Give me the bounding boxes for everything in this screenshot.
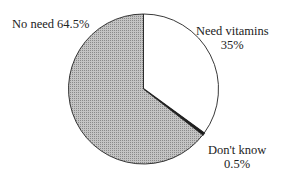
label-dont-know: Don't know 0.5% [208,143,266,171]
label-need-vitamins-value: 35% [196,38,269,52]
label-dont-know-value: 0.5% [208,157,266,171]
label-need-vitamins-name: Need vitamins [196,24,269,38]
label-dont-know-name: Don't know [208,143,266,157]
label-no-need: No need 64.5% [12,17,89,31]
label-need-vitamins: Need vitamins 35% [196,24,269,52]
